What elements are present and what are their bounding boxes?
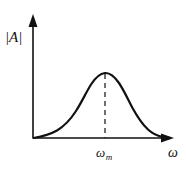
y-axis-arrowhead-icon — [29, 14, 38, 27]
x-axis-label: ω — [168, 146, 178, 160]
peak-frequency-symbol: ω — [96, 145, 105, 160]
y-axis-label: |A| — [5, 30, 22, 45]
peak-frequency-subscript: m — [106, 152, 113, 162]
x-axis-arrowhead-icon — [161, 134, 174, 143]
resonance-curve-figure: |A| ω ωm — [0, 0, 186, 169]
resonance-curve-path — [34, 73, 163, 138]
resonance-chart-svg — [0, 0, 186, 169]
peak-frequency-label: ωm — [96, 146, 112, 162]
